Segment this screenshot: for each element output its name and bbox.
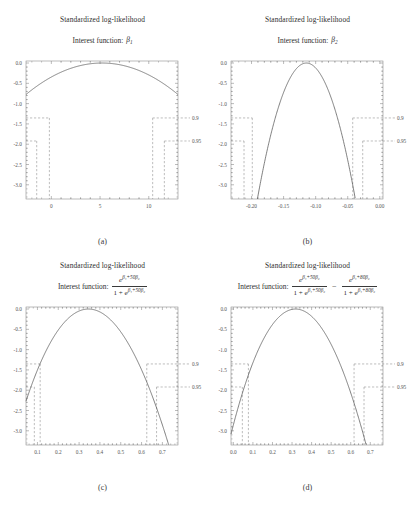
panel-b-subtitle-label: Interest function: [278, 36, 329, 45]
svg-text:0.7: 0.7 [159, 449, 166, 455]
svg-text:-1.0: -1.0 [14, 101, 23, 107]
svg-text:-0.20: -0.20 [246, 203, 257, 209]
svg-text:0.4: 0.4 [97, 449, 104, 455]
panel-a-svg: 0.0-0.5-1.0-1.5-2.0-2.5-3.005100.90.95 [0, 53, 205, 231]
svg-text:-2.0: -2.0 [219, 387, 228, 393]
panel-b-interest-symbol: β2 [331, 35, 337, 45]
panel-c-svg: 0.0-0.5-1.0-1.5-2.0-2.5-3.00.10.20.30.40… [0, 299, 205, 477]
svg-text:0.2: 0.2 [55, 449, 62, 455]
panel-d-formula-operator: − [330, 282, 339, 291]
panel-b: Standardized log-likelihood Interest fun… [205, 16, 410, 261]
svg-text:-0.5: -0.5 [14, 326, 23, 332]
panel-d-formula-term1: eβ₁+50β₂ 1 + eβ₁+50β₂ [292, 275, 328, 297]
svg-text:0.00: 0.00 [375, 203, 385, 209]
panel-a-subtitle: Interest function: β1 [0, 27, 205, 53]
panel-b-plot: 0.0-0.5-1.0-1.5-2.0-2.5-3.0-0.20-0.15-0.… [205, 53, 410, 231]
panel-c-formula-denominator: 1 + eβ₁+50β₂ [112, 286, 148, 297]
panel-c-formula-numerator: eβ₁+50β₂ [117, 275, 142, 285]
svg-text:-2.0: -2.0 [219, 141, 228, 147]
panel-d-term1-denominator: 1 + eβ₁+50β₂ [292, 286, 328, 297]
svg-text:0.95: 0.95 [397, 138, 407, 144]
panel-b-title: Standardized log-likelihood [205, 16, 410, 27]
svg-text:-0.5: -0.5 [219, 326, 228, 332]
svg-text:0.9: 0.9 [397, 361, 404, 367]
panel-a-caption: (a) [0, 237, 205, 246]
svg-text:-1.5: -1.5 [219, 367, 228, 373]
svg-text:0.0: 0.0 [15, 306, 22, 312]
panel-d-title: Standardized log-likelihood [205, 262, 410, 273]
panel-d-subtitle-label: Interest function: [238, 282, 289, 291]
svg-text:0.3: 0.3 [289, 449, 296, 455]
panel-d-term2-denominator: 1 + eβ₁+80β₂ [342, 286, 378, 297]
svg-text:-0.5: -0.5 [219, 80, 228, 86]
panel-c-title: Standardized log-likelihood [0, 262, 205, 273]
panel-d-formula-term2: eβ₁+80β₂ 1 + eβ₁+80β₂ [342, 275, 378, 297]
svg-text:-3.0: -3.0 [14, 428, 23, 434]
svg-text:0.0: 0.0 [220, 306, 227, 312]
panel-b-caption: (b) [205, 237, 410, 246]
svg-text:0.3: 0.3 [76, 449, 83, 455]
svg-text:0.1: 0.1 [34, 449, 41, 455]
svg-text:0.95: 0.95 [192, 138, 202, 144]
panel-c-plot: 0.0-0.5-1.0-1.5-2.0-2.5-3.00.10.20.30.40… [0, 299, 205, 477]
svg-text:0.95: 0.95 [397, 384, 407, 390]
svg-text:-0.05: -0.05 [342, 203, 353, 209]
svg-text:0.0: 0.0 [15, 60, 22, 66]
panel-d-caption: (d) [205, 483, 410, 492]
svg-text:-2.5: -2.5 [14, 408, 23, 414]
svg-text:0.7: 0.7 [367, 449, 374, 455]
panel-c-caption: (c) [0, 483, 205, 492]
svg-text:-2.0: -2.0 [14, 387, 23, 393]
panel-d-term1-numerator: eβ₁+50β₂ [297, 275, 322, 285]
svg-text:10: 10 [146, 203, 152, 209]
panel-c-subtitle-label: Interest function: [58, 282, 109, 291]
svg-text:-0.10: -0.10 [310, 203, 321, 209]
panel-d-term2-numerator: eβ₁+80β₂ [347, 275, 372, 285]
panel-a-plot: 0.0-0.5-1.0-1.5-2.0-2.5-3.005100.90.95 [0, 53, 205, 231]
svg-text:-1.0: -1.0 [14, 347, 23, 353]
svg-text:-2.5: -2.5 [219, 408, 228, 414]
svg-text:0.5: 0.5 [328, 449, 335, 455]
svg-text:0.5: 0.5 [117, 449, 124, 455]
svg-text:-0.5: -0.5 [14, 80, 23, 86]
svg-text:0.95: 0.95 [192, 384, 202, 390]
svg-text:0: 0 [50, 203, 53, 209]
svg-text:0.2: 0.2 [269, 449, 276, 455]
svg-text:0.0: 0.0 [230, 449, 237, 455]
svg-text:0.6: 0.6 [347, 449, 354, 455]
svg-text:0.1: 0.1 [250, 449, 257, 455]
panel-c: Standardized log-likelihood Interest fun… [0, 262, 205, 507]
svg-text:-1.0: -1.0 [219, 347, 228, 353]
svg-text:0.9: 0.9 [192, 361, 199, 367]
figure-root: Standardized log-likelihood Interest fun… [0, 0, 410, 507]
svg-text:-1.5: -1.5 [14, 367, 23, 373]
svg-text:0.0: 0.0 [220, 60, 227, 66]
svg-text:-3.0: -3.0 [219, 182, 228, 188]
svg-text:-0.15: -0.15 [278, 203, 289, 209]
svg-text:-1.0: -1.0 [219, 101, 228, 107]
svg-text:-3.0: -3.0 [14, 182, 23, 188]
svg-text:0.4: 0.4 [308, 449, 315, 455]
panel-d: Standardized log-likelihood Interest fun… [205, 262, 410, 507]
panel-b-svg: 0.0-0.5-1.0-1.5-2.0-2.5-3.0-0.20-0.15-0.… [205, 53, 410, 231]
panel-b-subtitle: Interest function: β2 [205, 27, 410, 53]
svg-text:0.6: 0.6 [138, 449, 145, 455]
svg-text:-2.0: -2.0 [14, 141, 23, 147]
panel-c-formula: eβ₁+50β₂ 1 + eβ₁+50β₂ [112, 275, 148, 297]
panel-a-subtitle-label: Interest function: [73, 36, 124, 45]
svg-text:5: 5 [99, 203, 102, 209]
svg-text:-2.5: -2.5 [219, 162, 228, 168]
svg-text:-1.5: -1.5 [219, 121, 228, 127]
svg-text:-2.5: -2.5 [14, 162, 23, 168]
panel-a: Standardized log-likelihood Interest fun… [0, 16, 205, 261]
panel-d-svg: 0.0-0.5-1.0-1.5-2.0-2.5-3.00.00.10.20.30… [205, 299, 410, 477]
panel-a-interest-symbol: β1 [126, 35, 132, 45]
svg-text:-1.5: -1.5 [14, 121, 23, 127]
panel-d-subtitle: Interest function: eβ₁+50β₂ 1 + eβ₁+50β₂… [205, 273, 410, 299]
panel-d-plot: 0.0-0.5-1.0-1.5-2.0-2.5-3.00.00.10.20.30… [205, 299, 410, 477]
panel-a-title: Standardized log-likelihood [0, 16, 205, 27]
svg-text:0.9: 0.9 [192, 115, 199, 121]
svg-text:-3.0: -3.0 [219, 428, 228, 434]
svg-text:0.9: 0.9 [397, 115, 404, 121]
panel-c-subtitle: Interest function: eβ₁+50β₂ 1 + eβ₁+50β₂ [0, 273, 205, 299]
